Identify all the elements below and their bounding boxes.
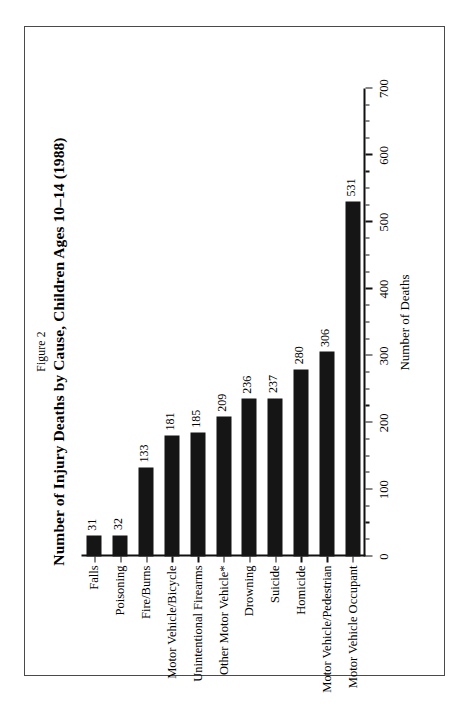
bar-value-label: 32 <box>110 518 125 530</box>
bar-value-label: 133 <box>136 444 151 462</box>
bar-value-label: 236 <box>239 375 254 393</box>
value-tick-minor <box>365 455 369 456</box>
category-label: Other Motor Vehicle* <box>216 565 231 674</box>
value-tick-minor <box>365 120 369 121</box>
value-tick-minor <box>365 304 369 305</box>
figure-frame: Figure 2 Number of Injury Deaths by Caus… <box>24 26 445 676</box>
bar-row: Fire/Burns133 <box>138 88 153 556</box>
category-tick <box>249 556 250 562</box>
value-axis-title: Number of Deaths <box>396 88 412 556</box>
value-tick-minor <box>365 170 369 171</box>
bar[interactable] <box>345 201 360 556</box>
bar-row: Drowning236 <box>241 88 256 556</box>
value-tick-minor <box>365 237 369 238</box>
bar-row: Unintentional Firearms185 <box>190 88 205 556</box>
category-tick <box>197 556 198 562</box>
bar-row: Other Motor Vehicle*209 <box>216 88 231 556</box>
value-tick-minor <box>365 104 369 105</box>
value-tick-label: 700 <box>376 79 390 98</box>
category-label: Motor Vehicle Occupant <box>345 565 360 688</box>
value-tick-label: 300 <box>376 346 390 365</box>
figure-number-label: Figure 2 <box>33 28 47 674</box>
category-label: Motor Vehicle/Bicycle <box>164 565 179 678</box>
value-tick-label: 500 <box>376 212 390 231</box>
category-tick <box>300 556 301 562</box>
value-tick-major <box>365 287 372 288</box>
value-tick-major <box>365 488 372 489</box>
value-tick-minor <box>365 371 369 372</box>
bar-value-label: 31 <box>84 518 99 530</box>
value-tick-minor <box>365 321 369 322</box>
value-tick-minor <box>365 505 369 506</box>
category-label: Homicide <box>293 565 308 614</box>
bar-row: Motor Vehicle Occupant531 <box>345 88 360 556</box>
title-block: Figure 2 Number of Injury Deaths by Caus… <box>33 28 67 674</box>
bar-value-label: 531 <box>343 178 358 196</box>
value-tick-minor <box>365 204 369 205</box>
category-tick <box>120 556 121 562</box>
category-label: Fire/Burns <box>138 565 153 618</box>
bar-row: Homicide280 <box>293 88 308 556</box>
bar-value-label: 280 <box>291 346 306 364</box>
value-tick-major <box>365 354 372 355</box>
value-tick-minor <box>365 404 369 405</box>
value-tick-major <box>365 220 372 221</box>
bar-row: Poisoning32 <box>112 88 127 556</box>
value-tick-major <box>365 153 372 154</box>
value-tick-label: 200 <box>376 413 390 432</box>
bar-value-label: 209 <box>214 393 229 411</box>
value-tick-minor <box>365 187 369 188</box>
value-tick-label: 600 <box>376 145 390 164</box>
category-label: Motor Vehicle/Pedestrian <box>319 565 334 692</box>
value-tick-minor <box>365 137 369 138</box>
bar[interactable] <box>86 535 101 556</box>
value-tick-minor <box>365 338 369 339</box>
value-tick-major <box>365 555 372 556</box>
category-label: Poisoning <box>112 565 127 615</box>
chart-plot-area: Falls31Poisoning32Fire/Burns133Motor Veh… <box>81 88 365 556</box>
bar[interactable] <box>138 467 153 556</box>
bar[interactable] <box>164 435 179 556</box>
value-tick-label: 0 <box>376 553 390 559</box>
bar[interactable] <box>293 369 308 556</box>
bar-value-label: 237 <box>265 375 280 393</box>
bar-value-label: 185 <box>188 409 203 427</box>
value-tick-label: 400 <box>376 279 390 298</box>
value-tick-minor <box>365 254 369 255</box>
category-tick <box>223 556 224 562</box>
category-tick <box>352 556 353 562</box>
bar-value-label: 181 <box>162 412 177 430</box>
bar[interactable] <box>190 432 205 556</box>
bar-value-label: 306 <box>317 328 332 346</box>
category-tick <box>94 556 95 562</box>
bar[interactable] <box>267 398 282 556</box>
category-label: Falls <box>86 565 101 589</box>
bar[interactable] <box>216 416 231 556</box>
bar-row: Motor Vehicle/Pedestrian306 <box>319 88 334 556</box>
bar-row: Motor Vehicle/Bicycle181 <box>164 88 179 556</box>
category-tick <box>146 556 147 562</box>
rotated-figure-stage: Figure 2 Number of Injury Deaths by Caus… <box>25 28 444 674</box>
bar[interactable] <box>112 535 127 556</box>
category-label: Drowning <box>241 565 256 616</box>
value-tick-minor <box>365 271 369 272</box>
value-tick-minor <box>365 521 369 522</box>
bar[interactable] <box>241 398 256 556</box>
bar-row: Suicide237 <box>267 88 282 556</box>
category-tick <box>326 556 327 562</box>
page-title: Number of Injury Deaths by Cause, Childr… <box>48 28 67 674</box>
category-tick <box>275 556 276 562</box>
value-tick-major <box>365 421 372 422</box>
category-label: Suicide <box>267 565 282 603</box>
value-tick-minor <box>365 538 369 539</box>
value-tick-minor <box>365 438 369 439</box>
value-tick-major <box>365 87 372 88</box>
bar[interactable] <box>319 351 334 556</box>
category-label: Unintentional Firearms <box>190 565 205 681</box>
category-tick <box>171 556 172 562</box>
value-tick-label: 100 <box>376 480 390 499</box>
bar-row: Falls31 <box>86 88 101 556</box>
value-tick-minor <box>365 388 369 389</box>
value-tick-minor <box>365 471 369 472</box>
